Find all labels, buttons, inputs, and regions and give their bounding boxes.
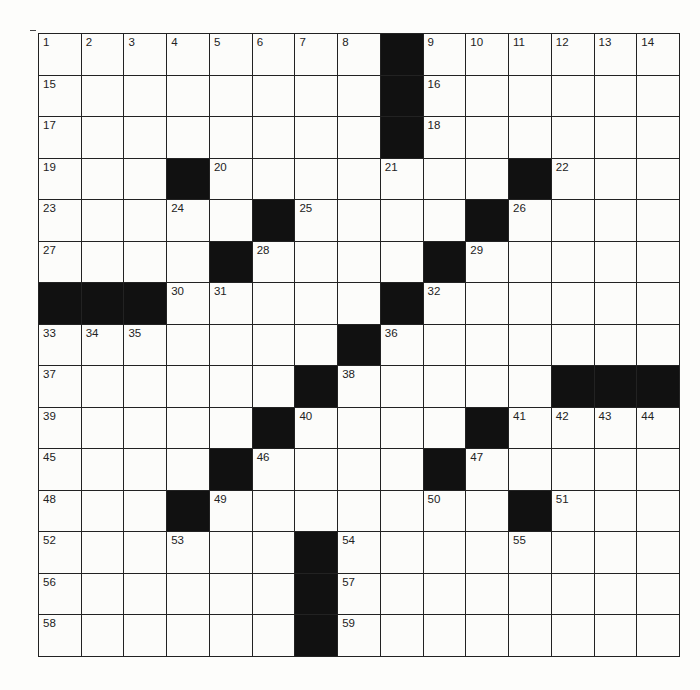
grid-cell[interactable] (82, 408, 124, 449)
grid-cell[interactable]: 56 (39, 574, 81, 615)
grid-cell[interactable] (595, 117, 637, 158)
grid-cell[interactable] (124, 159, 166, 200)
grid-cell[interactable]: 30 (167, 283, 209, 324)
grid-cell[interactable]: 36 (381, 325, 423, 366)
grid-cell[interactable] (253, 159, 295, 200)
grid-cell[interactable]: 27 (39, 242, 81, 283)
grid-cell[interactable]: 31 (210, 283, 252, 324)
grid-cell[interactable] (82, 449, 124, 490)
grid-cell[interactable] (124, 532, 166, 573)
grid-cell[interactable] (509, 615, 551, 656)
grid-cell[interactable] (338, 117, 380, 158)
grid-cell[interactable] (210, 325, 252, 366)
grid-cell[interactable] (595, 325, 637, 366)
grid-cell[interactable] (637, 491, 679, 532)
grid-cell[interactable]: 32 (424, 283, 466, 324)
grid-cell[interactable]: 53 (167, 532, 209, 573)
grid-cell[interactable] (466, 117, 508, 158)
grid-cell[interactable]: 22 (552, 159, 594, 200)
grid-cell[interactable] (338, 200, 380, 241)
grid-cell[interactable] (637, 574, 679, 615)
grid-cell[interactable] (424, 366, 466, 407)
grid-cell[interactable] (424, 200, 466, 241)
grid-cell[interactable] (552, 283, 594, 324)
grid-cell[interactable] (210, 408, 252, 449)
grid-cell[interactable] (210, 200, 252, 241)
grid-cell[interactable]: 29 (466, 242, 508, 283)
grid-cell[interactable]: 54 (338, 532, 380, 573)
grid-cell[interactable] (167, 325, 209, 366)
grid-cell[interactable] (552, 117, 594, 158)
grid-cell[interactable] (595, 574, 637, 615)
grid-cell[interactable] (509, 117, 551, 158)
grid-cell[interactable] (466, 283, 508, 324)
grid-cell[interactable] (637, 76, 679, 117)
grid-cell[interactable] (210, 117, 252, 158)
grid-cell[interactable] (552, 449, 594, 490)
grid-cell[interactable] (552, 76, 594, 117)
grid-cell[interactable] (167, 76, 209, 117)
grid-cell[interactable] (338, 449, 380, 490)
grid-cell[interactable] (295, 283, 337, 324)
grid-cell[interactable]: 59 (338, 615, 380, 656)
grid-cell[interactable] (253, 76, 295, 117)
grid-cell[interactable] (637, 242, 679, 283)
grid-cell[interactable] (124, 117, 166, 158)
grid-cell[interactable] (338, 283, 380, 324)
grid-cell[interactable]: 47 (466, 449, 508, 490)
grid-cell[interactable] (552, 325, 594, 366)
grid-cell[interactable]: 44 (637, 408, 679, 449)
grid-cell[interactable] (466, 574, 508, 615)
grid-cell[interactable] (82, 200, 124, 241)
grid-cell[interactable] (82, 366, 124, 407)
grid-cell[interactable] (381, 532, 423, 573)
grid-cell[interactable]: 52 (39, 532, 81, 573)
grid-cell[interactable] (338, 408, 380, 449)
grid-cell[interactable] (253, 615, 295, 656)
grid-cell[interactable] (338, 159, 380, 200)
grid-cell[interactable] (466, 325, 508, 366)
grid-cell[interactable] (509, 574, 551, 615)
grid-cell[interactable] (552, 200, 594, 241)
grid-cell[interactable] (295, 242, 337, 283)
grid-cell[interactable]: 1 (39, 34, 81, 75)
grid-cell[interactable]: 14 (637, 34, 679, 75)
grid-cell[interactable]: 11 (509, 34, 551, 75)
grid-cell[interactable] (210, 532, 252, 573)
grid-cell[interactable] (124, 408, 166, 449)
grid-cell[interactable]: 20 (210, 159, 252, 200)
grid-cell[interactable] (210, 366, 252, 407)
grid-cell[interactable] (82, 76, 124, 117)
grid-cell[interactable] (167, 408, 209, 449)
grid-cell[interactable]: 2 (82, 34, 124, 75)
grid-cell[interactable]: 17 (39, 117, 81, 158)
grid-cell[interactable] (253, 491, 295, 532)
grid-cell[interactable]: 35 (124, 325, 166, 366)
grid-cell[interactable]: 58 (39, 615, 81, 656)
grid-cell[interactable] (509, 283, 551, 324)
grid-cell[interactable] (381, 574, 423, 615)
grid-cell[interactable] (637, 200, 679, 241)
grid-cell[interactable]: 39 (39, 408, 81, 449)
grid-cell[interactable] (637, 449, 679, 490)
grid-cell[interactable]: 12 (552, 34, 594, 75)
grid-cell[interactable] (253, 325, 295, 366)
grid-cell[interactable] (595, 200, 637, 241)
grid-cell[interactable] (509, 242, 551, 283)
grid-cell[interactable] (253, 117, 295, 158)
grid-cell[interactable] (338, 76, 380, 117)
grid-cell[interactable] (466, 491, 508, 532)
grid-cell[interactable] (124, 76, 166, 117)
grid-cell[interactable] (82, 532, 124, 573)
grid-cell[interactable] (210, 615, 252, 656)
grid-cell[interactable]: 28 (253, 242, 295, 283)
grid-cell[interactable] (124, 615, 166, 656)
grid-cell[interactable] (167, 574, 209, 615)
grid-cell[interactable] (253, 574, 295, 615)
grid-cell[interactable]: 43 (595, 408, 637, 449)
grid-cell[interactable]: 26 (509, 200, 551, 241)
grid-cell[interactable]: 6 (253, 34, 295, 75)
grid-cell[interactable] (253, 532, 295, 573)
grid-cell[interactable] (424, 532, 466, 573)
grid-cell[interactable] (253, 283, 295, 324)
